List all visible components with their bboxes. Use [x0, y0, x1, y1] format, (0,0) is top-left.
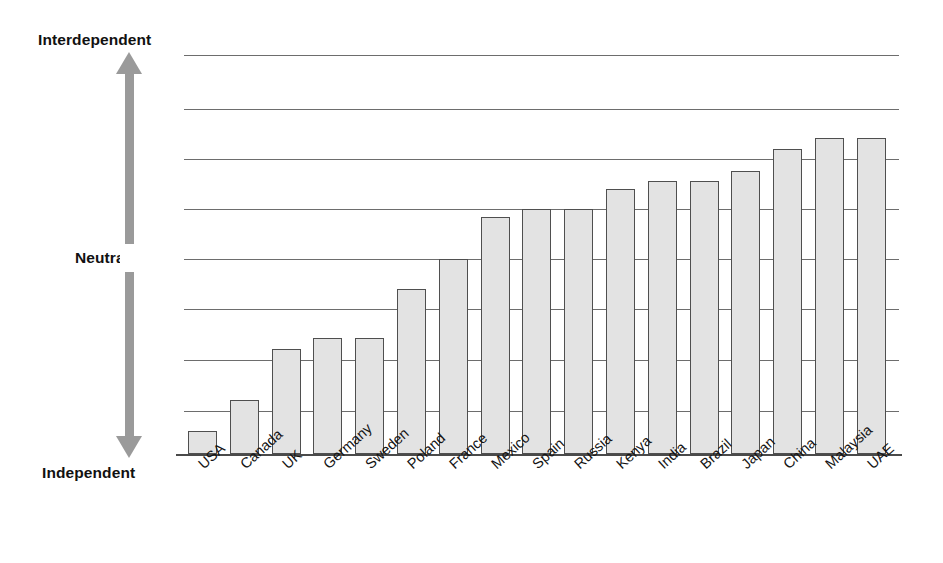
bar-uae[interactable] [857, 138, 886, 454]
x-axis-category-labels: USACanadaUKGermanySwedenPolandFranceMexi… [184, 460, 924, 563]
bar-malaysia[interactable] [815, 138, 844, 454]
arrow-down-head-icon [116, 436, 142, 458]
chart-figure: Interdependent Neutral Independent USACa… [0, 0, 943, 563]
bar-france[interactable] [439, 259, 468, 454]
bar-russia[interactable] [564, 209, 593, 454]
bar-germany[interactable] [313, 338, 342, 454]
bar-series [184, 48, 899, 455]
bar-kenya[interactable] [606, 189, 635, 454]
arrow-label-gap [120, 244, 139, 272]
bar-mexico[interactable] [481, 217, 510, 454]
axis-label-independent: Independent [42, 464, 135, 482]
axis-label-interdependent: Interdependent [38, 31, 151, 49]
bar-spain[interactable] [522, 209, 551, 454]
plot-area [184, 48, 899, 460]
bar-china[interactable] [773, 149, 802, 454]
bar-japan[interactable] [731, 171, 760, 454]
vertical-scale-arrow-icon [116, 52, 142, 458]
bar-brazil[interactable] [690, 181, 719, 454]
bar-india[interactable] [648, 181, 677, 454]
